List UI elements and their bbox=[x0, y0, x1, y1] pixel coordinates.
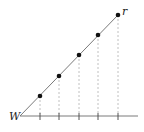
point-2 bbox=[57, 74, 62, 79]
projection-lines bbox=[40, 15, 118, 116]
point-5 bbox=[116, 13, 121, 18]
point-3 bbox=[77, 53, 82, 58]
diagram-canvas: W r bbox=[0, 0, 144, 132]
point-4 bbox=[96, 33, 101, 38]
diagonal-line bbox=[20, 15, 118, 116]
label-origin: W bbox=[9, 110, 22, 123]
label-end: r bbox=[122, 5, 128, 18]
point-1 bbox=[38, 94, 43, 99]
